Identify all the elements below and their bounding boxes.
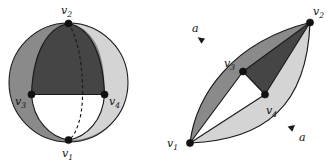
arrowhead-top <box>198 37 205 44</box>
sphere-vertex-v1 <box>65 136 72 143</box>
sphere-vertex-v3 <box>28 91 35 98</box>
lens-edge-label-a-top: a <box>192 22 199 35</box>
lens-vertex-v3 <box>239 68 246 75</box>
sphere-label-v2: v2 <box>61 4 72 19</box>
sphere-label-v1: v1 <box>62 147 73 161</box>
mathematical-figure: v2 v1 v3 v4 <box>0 0 331 161</box>
lens-edge-label-a-bottom: a <box>299 131 306 144</box>
figure-container: v2 v1 v3 v4 <box>0 0 331 161</box>
sphere-vertex-v2 <box>65 20 72 27</box>
lens-vertex-v4 <box>261 91 268 98</box>
lens-label-v1: v1 <box>167 137 178 152</box>
lens-vertex-v1 <box>186 139 193 146</box>
sphere-diagram: v2 v1 v3 v4 <box>9 4 129 161</box>
lens-vertex-v2 <box>306 19 313 26</box>
arrowhead-bottom <box>288 125 295 132</box>
planar-lens-diagram: v1 v2 v3 v4 a a <box>167 5 324 152</box>
lens-label-v3: v3 <box>224 57 235 72</box>
lens-label-v2: v2 <box>313 5 324 20</box>
sphere-vertex-v4 <box>101 91 108 98</box>
